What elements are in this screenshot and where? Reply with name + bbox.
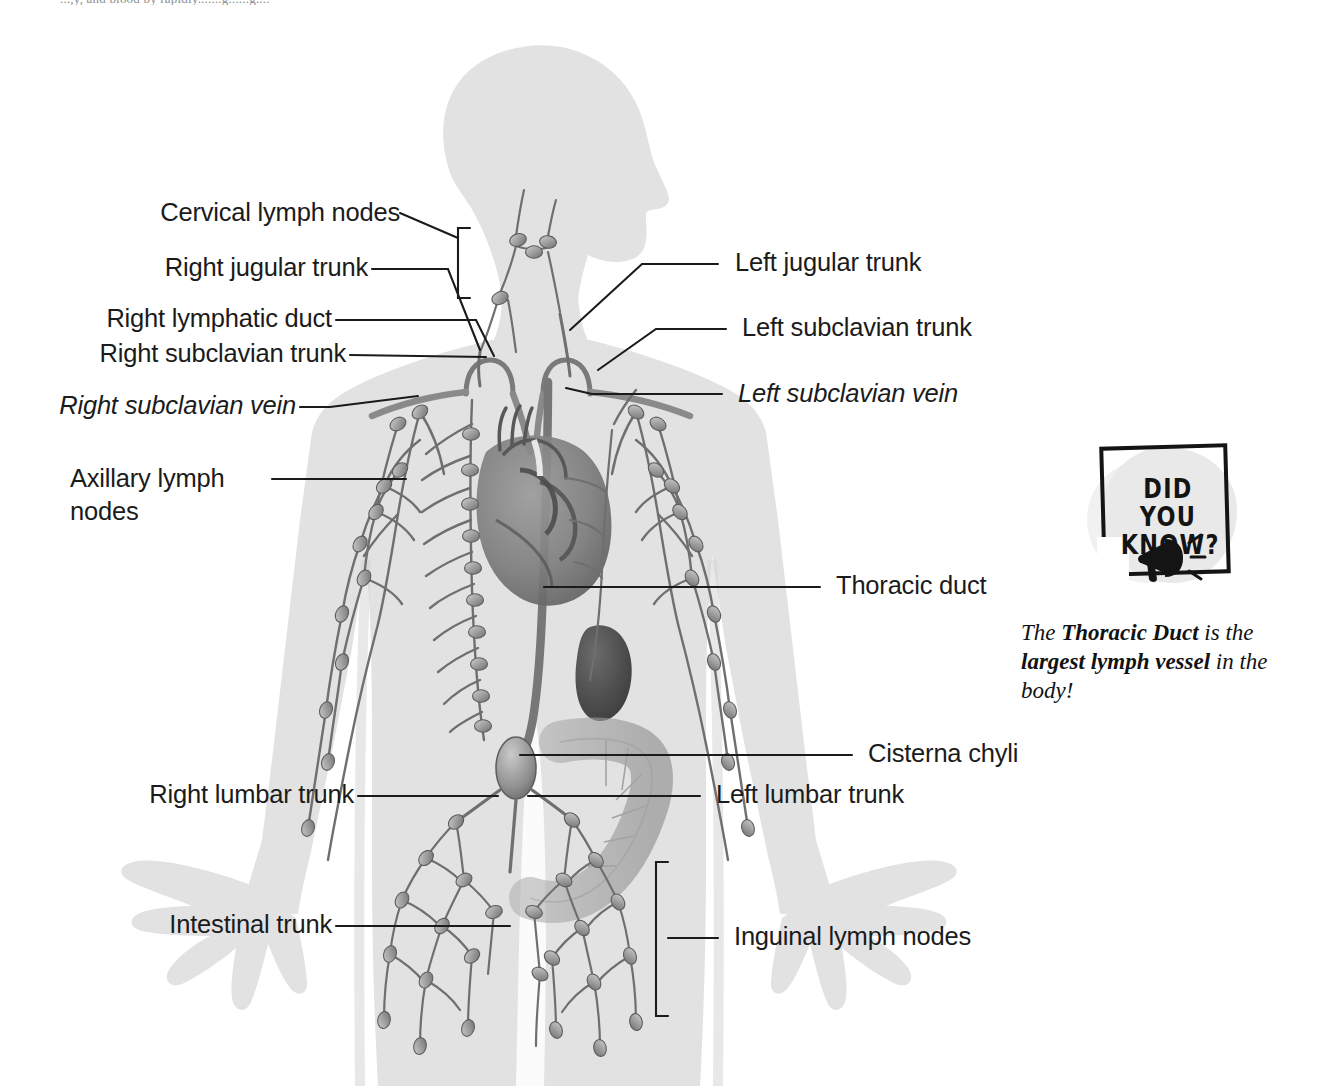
label-right-jugular-trunk: Right jugular trunk (24, 252, 368, 282)
label-right-subclavian-trunk: Right subclavian trunk (10, 338, 346, 368)
label-right-lumbar-trunk: Right lumbar trunk (30, 779, 354, 809)
label-thoracic-duct: Thoracic duct (836, 570, 986, 600)
cisterna-chyli (496, 737, 536, 799)
label-right-subclavian-vein: Right subclavian vein (10, 390, 296, 420)
label-left-jugular-trunk: Left jugular trunk (735, 247, 921, 277)
did-you-know-badge: DID YOUKNOW? (1083, 437, 1251, 605)
label-right-lymphatic-duct: Right lymphatic duct (10, 303, 332, 333)
caption-prefix: The (1021, 620, 1061, 645)
caption-bold-largest-lymph-vessel: largest lymph vessel (1021, 649, 1210, 674)
badge-line-1: DID YOU (1140, 474, 1196, 532)
figure-page: ...,y, and blood by rapidly.......g.....… (0, 0, 1342, 1090)
label-intestinal-trunk: Intestinal trunk (50, 909, 332, 939)
cervical-bracket (458, 228, 470, 298)
did-you-know-caption: The Thoracic Duct is the largest lymph v… (1021, 618, 1289, 705)
label-left-subclavian-trunk: Left subclavian trunk (742, 312, 972, 342)
label-left-subclavian-vein: Left subclavian vein (738, 378, 958, 408)
megaphone-icon (1135, 533, 1207, 589)
label-cervical-lymph-nodes: Cervical lymph nodes (24, 197, 400, 227)
label-axillary-lymph-nodes: Axillary lymph nodes (70, 462, 270, 528)
label-left-lumbar-trunk: Left lumbar trunk (716, 779, 904, 809)
caption-mid: is the (1199, 620, 1254, 645)
label-cisterna-chyli: Cisterna chyli (868, 738, 1018, 768)
caption-bold-thoracic-duct: Thoracic Duct (1061, 620, 1198, 645)
label-inguinal-lymph-nodes: Inguinal lymph nodes (734, 921, 971, 951)
